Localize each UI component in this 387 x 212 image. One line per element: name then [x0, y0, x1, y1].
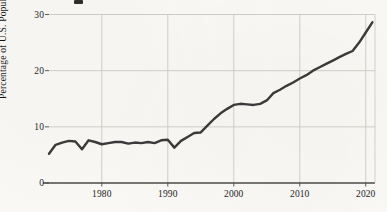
line-chart-plot [0, 0, 387, 212]
y-tick-label-10: 10 [34, 122, 44, 132]
x-tick-label-2020: 2020 [356, 189, 375, 199]
vertical-gridlines [102, 15, 366, 184]
tick-marks [45, 15, 366, 187]
y-tick-label-30: 30 [34, 10, 44, 20]
axis-lines [43, 15, 375, 184]
y-tick-label-0: 0 [39, 178, 44, 188]
data-series-line [49, 22, 372, 153]
chart-figure: Percentage of U.S. Population 0102030 19… [0, 0, 387, 212]
horizontal-gridlines [49, 15, 375, 127]
x-tick-label-1990: 1990 [158, 189, 177, 199]
x-tick-label-2000: 2000 [224, 189, 243, 199]
y-tick-label-20: 20 [34, 66, 44, 76]
x-tick-label-2010: 2010 [290, 189, 309, 199]
x-tick-label-1980: 1980 [92, 189, 111, 199]
